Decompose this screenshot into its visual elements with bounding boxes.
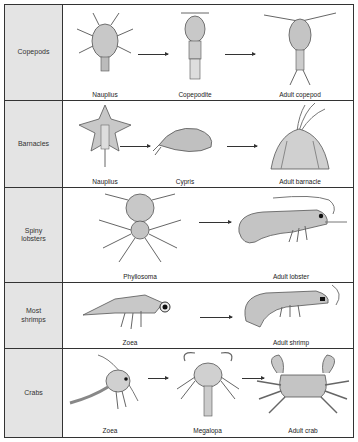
row-barnacles: Barnacles Nauplius Cypris Adult b [5,101,353,188]
adult-lobster-icon [233,192,349,252]
stage-caption: Megalopa [165,427,250,434]
row-copepods: Copepods Nauplius Copepodite [5,5,353,101]
megalopa-icon [173,349,243,419]
stage-caption: Adult crab [253,427,353,434]
stage-caption: Zoea [70,339,190,346]
shrimp-zoea-icon [75,285,185,331]
stage-nauplius: Nauplius [65,101,145,188]
stage-adult-crab: Adult crab [253,349,353,437]
crab-zoea-icon [68,351,152,415]
stage-caption: Copepodite [155,91,235,98]
larval-stages-table: Copepods Nauplius Copepodite [4,4,354,438]
stage-phyllosoma: Phyllosoma [85,188,195,283]
row-spiny-lobsters: Spiny lobsters Phyllosoma [5,188,353,283]
stage-caption: Zoea [65,427,155,434]
arrow-icon [200,317,232,318]
adult-barnacle-icon [265,101,335,173]
cypris-icon [153,121,217,161]
group-label: Most shrimps [5,283,63,348]
stage-caption: Adult lobster [230,273,352,280]
stage-caption: Adult shrimp [230,339,352,346]
stage-nauplius: Nauplius [65,5,145,101]
stage-caption: Nauplius [65,91,145,98]
arrow-icon [199,222,231,223]
stage-adult-lobster: Adult lobster [230,188,352,283]
stage-adult-copepod: Adult copepod [250,5,350,101]
copepod-nauplius-icon [75,11,135,81]
stage-megalopa: Megalopa [165,349,250,437]
group-label: Crabs [5,349,63,437]
row-crabs: Crabs Zoea Megalopa [5,349,353,437]
stage-cypris: Cypris [145,101,225,188]
stage-zoea: Zoea [65,349,155,437]
stage-caption: Nauplius [65,178,145,185]
barnacle-nauplius-icon [75,103,135,169]
copepodite-icon [175,7,215,85]
adult-crab-icon [255,351,351,417]
stage-caption: Adult barnacle [250,178,350,185]
stage-adult-shrimp: Adult shrimp [230,283,352,349]
group-label: Barnacles [5,101,63,187]
phyllosoma-icon [95,190,185,264]
stage-adult-barnacle: Adult barnacle [250,101,350,188]
adult-copepod-icon [262,7,338,87]
stage-caption: Cypris [145,178,225,185]
adult-shrimp-icon [236,283,346,333]
group-label: Copepods [5,5,63,100]
stage-copepodite: Copepodite [155,5,235,101]
stage-zoea: Zoea [70,283,190,349]
row-most-shrimps: Most shrimps Zoea Adult shrimp [5,283,353,349]
stage-caption: Adult copepod [250,91,350,98]
stage-caption: Phyllosoma [85,273,195,280]
group-label: Spiny lobsters [5,188,63,282]
